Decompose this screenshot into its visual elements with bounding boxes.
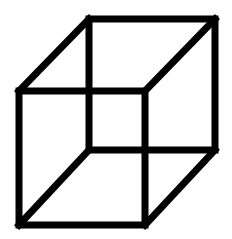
edge-bottom-left [19, 150, 89, 225]
edge-bottom-right [145, 150, 215, 225]
edge-top-left [19, 19, 89, 91]
necker-cube-diagram [0, 0, 232, 239]
edge-top-right [145, 19, 215, 91]
